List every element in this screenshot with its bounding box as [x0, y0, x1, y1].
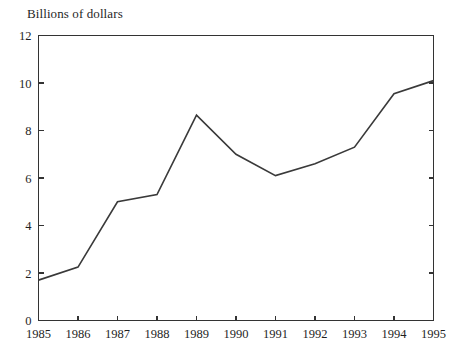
x-tick-label: 1995 [421, 327, 446, 341]
x-tick-label: 1989 [184, 327, 209, 341]
tick-marks [39, 83, 434, 321]
x-tick-label: 1987 [105, 327, 130, 341]
x-axis-tick-labels: 1985198619871988198919901991199219931994… [26, 327, 446, 341]
x-tick-label: 1986 [66, 327, 91, 341]
plot-area: 024681012 198519861987198819891990199119… [0, 0, 458, 357]
series-line [39, 81, 434, 281]
chart-axes [39, 36, 434, 321]
y-tick-label: 10 [19, 77, 32, 91]
x-tick-label: 1991 [263, 327, 288, 341]
x-tick-label: 1994 [382, 327, 408, 341]
line-chart-figure: Billions of dollars 024681012 1985198619… [0, 0, 458, 357]
x-tick-label: 1985 [26, 327, 51, 341]
x-tick-label: 1993 [342, 327, 367, 341]
y-tick-label: 2 [25, 267, 31, 281]
x-tick-label: 1992 [303, 327, 328, 341]
y-tick-label: 8 [25, 124, 31, 138]
x-tick-label: 1990 [224, 327, 249, 341]
y-axis-tick-labels: 024681012 [19, 29, 32, 328]
y-tick-label: 6 [25, 172, 31, 186]
x-tick-label: 1988 [145, 327, 170, 341]
data-series [39, 81, 434, 281]
y-tick-label: 12 [19, 29, 32, 43]
y-tick-label: 4 [25, 219, 32, 233]
